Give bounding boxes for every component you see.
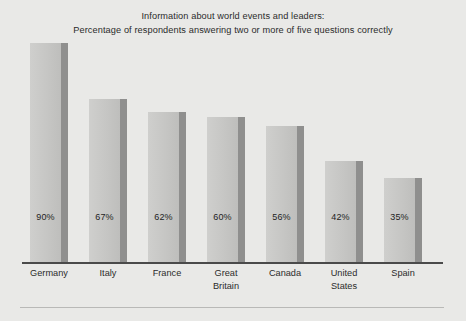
bar-group-france: 62% <box>148 40 186 264</box>
bar-face-italy <box>89 99 120 264</box>
category-label-spain: Spain <box>370 267 436 280</box>
category-label-france: France <box>134 267 200 280</box>
plot-area: 90% 67% 62% 60% <box>22 40 444 264</box>
category-label-spain-line-1: Spain <box>370 267 436 280</box>
bar-face-france <box>148 112 179 264</box>
bar-great-britain <box>207 117 245 264</box>
category-label-germany-line-1: Germany <box>16 267 82 280</box>
chart-title-line-2: Percentage of respondents answering two … <box>0 23 466 37</box>
bar-shadow-france <box>179 112 186 264</box>
category-label-canada: Canada <box>252 267 318 280</box>
category-label-germany: Germany <box>16 267 82 280</box>
bar-france <box>148 112 186 264</box>
bar-shadow-italy <box>120 99 127 264</box>
bar-value-great-britain: 60% <box>207 212 238 222</box>
category-label-italy-line-1: Italy <box>75 267 141 280</box>
chart-title: Information about world events and leade… <box>0 9 466 37</box>
bar-face-canada <box>266 126 297 264</box>
bar-shadow-great-britain <box>238 117 245 264</box>
bar-germany <box>30 43 68 264</box>
category-label-france-line-1: France <box>134 267 200 280</box>
category-label-united-states-line-2: States <box>311 280 377 293</box>
bar-group-canada: 56% <box>266 40 304 264</box>
bar-canada <box>266 126 304 264</box>
bar-value-canada: 56% <box>266 212 297 222</box>
category-label-great-britain-line-2: Britain <box>193 280 259 293</box>
bar-value-germany: 90% <box>30 212 61 222</box>
bar-value-france: 62% <box>148 212 179 222</box>
bar-group-spain: 35% <box>384 40 422 264</box>
bar-face-germany <box>30 43 61 264</box>
bar-face-great-britain <box>207 117 238 264</box>
bar-shadow-germany <box>61 43 68 264</box>
bar-group-germany: 90% <box>30 40 68 264</box>
bar-italy <box>89 99 127 264</box>
category-axis-labels: Germany Italy France Great Britain Canad… <box>22 267 444 311</box>
category-label-great-britain-line-1: Great <box>193 267 259 280</box>
category-label-united-states: United States <box>311 267 377 293</box>
bar-shadow-spain <box>415 178 422 264</box>
bar-group-united-states: 42% <box>325 40 363 264</box>
bar-shadow-canada <box>297 126 304 264</box>
bar-value-italy: 67% <box>89 212 120 222</box>
bar-group-great-britain: 60% <box>207 40 245 264</box>
bar-shadow-united-states <box>356 161 363 264</box>
bar-chart-figure: Information about world events and leade… <box>0 0 466 321</box>
category-label-italy: Italy <box>75 267 141 280</box>
bar-value-united-states: 42% <box>325 212 356 222</box>
category-label-canada-line-1: Canada <box>252 267 318 280</box>
bottom-frame-rule <box>20 307 444 308</box>
bar-value-spain: 35% <box>384 212 415 222</box>
bar-group-italy: 67% <box>89 40 127 264</box>
category-label-great-britain: Great Britain <box>193 267 259 293</box>
chart-title-line-1: Information about world events and leade… <box>0 9 466 23</box>
x-axis-line <box>22 262 443 264</box>
category-label-united-states-line-1: United <box>311 267 377 280</box>
